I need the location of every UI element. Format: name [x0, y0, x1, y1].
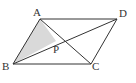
geometry-figure: A B C D P — [0, 0, 136, 83]
label-a: A — [33, 6, 41, 18]
label-b: B — [2, 60, 9, 72]
parallelogram-diagram: A B C D P — [0, 0, 136, 83]
label-d: D — [119, 7, 127, 19]
label-p: P — [53, 43, 59, 55]
shaded-triangle-abp — [13, 19, 56, 64]
label-c: C — [92, 60, 99, 72]
